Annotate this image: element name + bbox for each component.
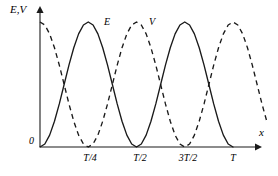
- x-axis-title: x: [259, 127, 264, 138]
- curve-label-e: E: [104, 17, 110, 27]
- curve-e-path: [40, 22, 233, 147]
- physics-graph-figure: E,V x 0 E V T/4T/23T/2T: [0, 0, 278, 176]
- curve-label-v: V: [149, 17, 155, 27]
- origin-label: 0: [29, 136, 34, 146]
- x-tick-label: T/2: [120, 153, 160, 163]
- x-axis-arrow-icon: [255, 143, 262, 150]
- x-tick-label: T/4: [70, 153, 110, 163]
- y-axis-title: E,V: [10, 4, 26, 15]
- curve-e-solid: [40, 22, 233, 147]
- curve-v-path: [40, 22, 267, 147]
- axes: [36, 6, 262, 151]
- x-tick-label: T: [213, 153, 253, 163]
- plot-area: [0, 0, 278, 176]
- x-tick-label: 3T/2: [168, 153, 208, 163]
- curve-v-dashed: [40, 22, 267, 147]
- y-axis-arrow-icon: [36, 6, 43, 13]
